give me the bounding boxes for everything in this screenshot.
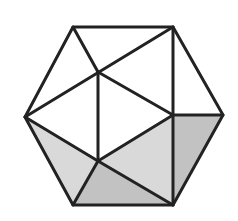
edge-P-R bbox=[98, 72, 173, 115]
hexagon-dissection-figure bbox=[0, 0, 238, 221]
edge-A-P bbox=[73, 27, 98, 72]
hexagon-svg bbox=[0, 0, 238, 221]
